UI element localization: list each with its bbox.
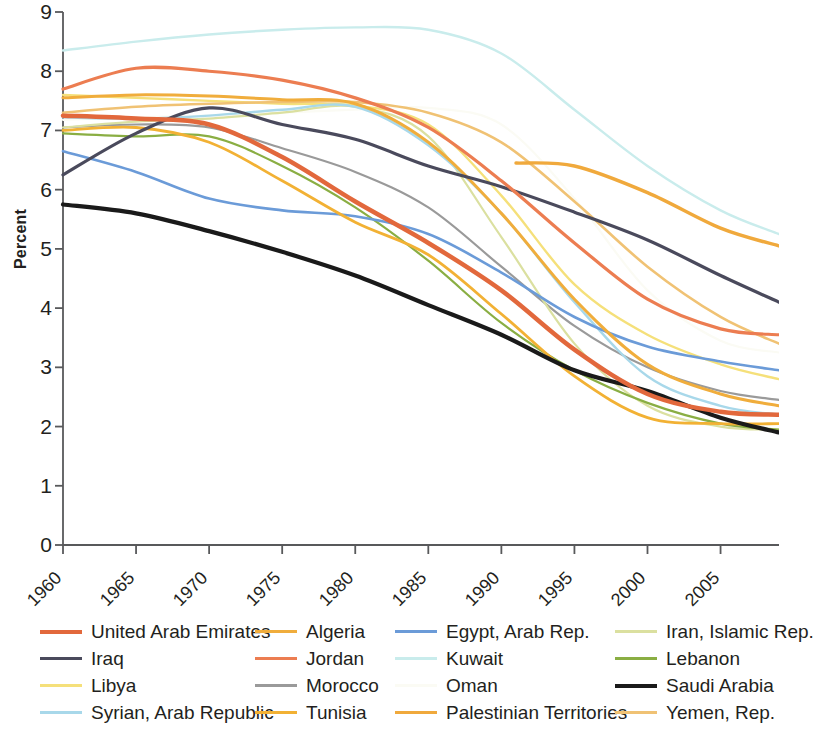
y-tick-label: 1 bbox=[22, 474, 52, 498]
chart-plot-area: 0123456789 Percent 196019651970197519801… bbox=[0, 0, 779, 600]
legend-color-swatch bbox=[40, 657, 82, 660]
legend-label: Saudi Arabia bbox=[666, 676, 774, 695]
legend-color-swatch bbox=[395, 630, 437, 633]
x-tick-label: 1980 bbox=[315, 568, 358, 611]
legend-label: Kuwait bbox=[446, 649, 503, 668]
x-tick-label: 1975 bbox=[242, 568, 285, 611]
chart-legend: United Arab EmiratesIraqLibyaSyrian, Ara… bbox=[0, 618, 779, 735]
legend-color-swatch bbox=[615, 657, 657, 660]
legend-color-swatch bbox=[40, 630, 82, 634]
legend-color-swatch bbox=[395, 657, 437, 660]
legend-label: Palestinian Territories bbox=[446, 703, 627, 722]
legend-label: Tunisia bbox=[306, 703, 367, 722]
x-tick-label: 1985 bbox=[388, 568, 431, 611]
legend-item[interactable]: Palestinian Territories bbox=[395, 699, 627, 726]
series-line bbox=[63, 127, 779, 424]
legend-item[interactable]: Libya bbox=[40, 672, 274, 699]
y-tick-label: 7 bbox=[22, 118, 52, 142]
legend-label: Oman bbox=[446, 676, 498, 695]
y-tick-label: 4 bbox=[22, 296, 52, 320]
legend-label: Egypt, Arab Rep. bbox=[446, 622, 590, 641]
legend-label: Morocco bbox=[306, 676, 379, 695]
legend-color-swatch bbox=[255, 711, 297, 714]
legend-label: Jordan bbox=[306, 649, 364, 668]
legend-item[interactable]: Yemen, Rep. bbox=[615, 699, 814, 726]
legend-color-swatch bbox=[255, 684, 297, 687]
legend-item[interactable]: Egypt, Arab Rep. bbox=[395, 618, 627, 645]
x-tick-label: 1995 bbox=[534, 568, 577, 611]
series-line bbox=[63, 106, 779, 430]
x-tick-label: 2005 bbox=[681, 568, 724, 611]
legend-label: Algeria bbox=[306, 622, 365, 641]
legend-color-swatch bbox=[40, 711, 82, 714]
legend-label: Iran, Islamic Rep. bbox=[666, 622, 814, 641]
series-line bbox=[63, 107, 779, 352]
series-line bbox=[63, 104, 779, 414]
legend-item[interactable]: Lebanon bbox=[615, 645, 814, 672]
series-line bbox=[63, 151, 779, 370]
legend-color-swatch bbox=[615, 684, 657, 688]
legend-color-swatch bbox=[615, 711, 657, 714]
legend-column: Iran, Islamic Rep.LebanonSaudi ArabiaYem… bbox=[615, 618, 814, 726]
legend-color-swatch bbox=[615, 630, 657, 633]
legend-item[interactable]: Iran, Islamic Rep. bbox=[615, 618, 814, 645]
x-axis-tick-labels: 1960196519701975198019851990199520002005 bbox=[0, 552, 779, 612]
legend-item[interactable]: Jordan bbox=[255, 645, 379, 672]
y-tick-label: 2 bbox=[22, 415, 52, 439]
legend-color-swatch bbox=[255, 657, 297, 660]
series-line bbox=[63, 133, 779, 429]
legend-label: Libya bbox=[91, 676, 136, 695]
legend-item[interactable]: Tunisia bbox=[255, 699, 379, 726]
legend-label: Lebanon bbox=[666, 649, 740, 668]
line-chart-svg bbox=[0, 0, 779, 600]
y-tick-label: 8 bbox=[22, 59, 52, 83]
x-tick-label: 1965 bbox=[96, 568, 139, 611]
legend-item[interactable]: Morocco bbox=[255, 672, 379, 699]
x-tick-label: 1990 bbox=[461, 568, 504, 611]
legend-color-swatch bbox=[40, 684, 82, 687]
legend-item[interactable]: Saudi Arabia bbox=[615, 672, 814, 699]
legend-item[interactable]: Oman bbox=[395, 672, 627, 699]
legend-color-swatch bbox=[395, 711, 437, 714]
y-axis-title: Percent bbox=[12, 194, 30, 284]
legend-item[interactable]: United Arab Emirates bbox=[40, 618, 274, 645]
legend-column: United Arab EmiratesIraqLibyaSyrian, Ara… bbox=[40, 618, 274, 726]
legend-label: Iraq bbox=[91, 649, 124, 668]
x-tick-label: 2000 bbox=[607, 568, 650, 611]
y-tick-label: 3 bbox=[22, 355, 52, 379]
legend-item[interactable]: Kuwait bbox=[395, 645, 627, 672]
legend-label: Yemen, Rep. bbox=[666, 703, 775, 722]
legend-column: Egypt, Arab Rep.KuwaitOmanPalestinian Te… bbox=[395, 618, 627, 726]
series-line bbox=[63, 124, 779, 399]
legend-label: Syrian, Arab Republic bbox=[91, 703, 274, 722]
x-tick-label: 1960 bbox=[23, 568, 66, 611]
legend-item[interactable]: Iraq bbox=[40, 645, 274, 672]
x-tick-label: 1970 bbox=[169, 568, 212, 611]
legend-color-swatch bbox=[255, 630, 297, 633]
legend-item[interactable]: Syrian, Arab Republic bbox=[40, 699, 274, 726]
legend-item[interactable]: Algeria bbox=[255, 618, 379, 645]
legend-column: AlgeriaJordanMoroccoTunisia bbox=[255, 618, 379, 726]
legend-label: United Arab Emirates bbox=[91, 622, 271, 641]
series-line bbox=[63, 116, 779, 415]
legend-color-swatch bbox=[395, 684, 437, 687]
y-tick-label: 9 bbox=[22, 0, 52, 24]
